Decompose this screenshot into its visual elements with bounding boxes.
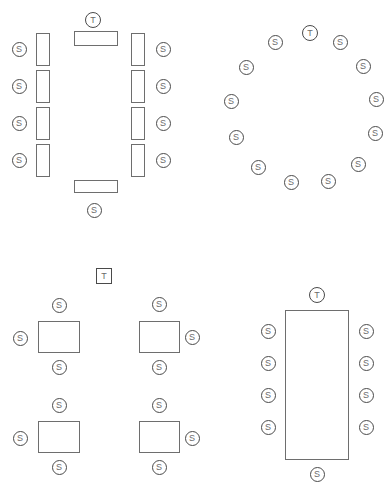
seat-right-4[interactable]: S	[156, 153, 171, 168]
head-marker-boardroom[interactable]: T	[309, 287, 325, 303]
seat-label: S	[265, 391, 271, 400]
seat-label: S	[363, 359, 369, 368]
seat-br-bottom[interactable]: S	[152, 460, 167, 475]
seat-board-right-1[interactable]: S	[359, 324, 374, 339]
head-label: T	[307, 29, 313, 38]
table-right-1[interactable]	[131, 33, 145, 66]
layout-round-table-ring[interactable]: TSSSSSSSSSSSS	[195, 0, 389, 230]
table-left-1[interactable]	[36, 33, 50, 66]
square-table-top-right[interactable]	[139, 321, 180, 353]
seat-br-right[interactable]: S	[185, 431, 200, 446]
seat-label: S	[16, 156, 22, 165]
seat-label: S	[17, 434, 23, 443]
seat-left-3[interactable]: S	[12, 116, 27, 131]
seat-tl-bottom[interactable]: S	[52, 360, 67, 375]
square-table-bottom-left[interactable]	[38, 421, 80, 453]
seat-label: S	[265, 359, 271, 368]
seat-ring-1[interactable]: S	[268, 35, 283, 50]
seat-tl-top[interactable]: S	[52, 298, 67, 313]
seat-ring-8[interactable]: S	[351, 157, 366, 172]
seat-board-right-4[interactable]: S	[359, 420, 374, 435]
seat-label: S	[325, 177, 331, 186]
head-label: T	[314, 291, 320, 300]
seat-bl-top[interactable]: S	[52, 398, 67, 413]
head-label: T	[90, 16, 96, 25]
seat-board-left-2[interactable]: S	[261, 356, 276, 371]
seat-label: S	[56, 463, 62, 472]
head-label: T	[101, 272, 107, 281]
seat-label: S	[16, 82, 22, 91]
seat-board-left-4[interactable]: S	[261, 420, 276, 435]
seat-ring-6[interactable]: S	[284, 175, 299, 190]
seat-left-1[interactable]: S	[12, 42, 27, 57]
long-rectangular-table[interactable]	[285, 310, 349, 460]
seat-bottom[interactable]: S	[87, 203, 102, 218]
seat-ring-10[interactable]: S	[369, 92, 384, 107]
layout-banquet-double-row[interactable]: TSSSSSSSSS	[0, 0, 195, 230]
seat-ring-9[interactable]: S	[368, 126, 383, 141]
seat-label: S	[233, 133, 239, 142]
seat-left-2[interactable]: S	[12, 79, 27, 94]
seat-right-2[interactable]: S	[156, 79, 171, 94]
seat-tr-right[interactable]: S	[185, 330, 200, 345]
seat-left-4[interactable]: S	[12, 153, 27, 168]
seating-layout-canvas: TSSSSSSSSSTSSSSSSSSSSSSTSSSSSSSSSSSSTSSS…	[0, 0, 389, 485]
table-left-2[interactable]	[36, 70, 50, 103]
layout-cabaret-four-squares[interactable]: TSSSSSSSSSSSS	[0, 255, 210, 485]
seat-label: S	[17, 334, 23, 343]
head-marker-ring[interactable]: T	[302, 25, 318, 41]
seat-ring-4[interactable]: S	[229, 130, 244, 145]
seat-board-right-2[interactable]: S	[359, 356, 374, 371]
seat-board-right-3[interactable]: S	[359, 388, 374, 403]
seat-label: S	[16, 119, 22, 128]
seat-right-3[interactable]: S	[156, 116, 171, 131]
table-bottom-cross[interactable]	[74, 180, 118, 193]
seat-tr-top[interactable]: S	[152, 297, 167, 312]
table-right-3[interactable]	[131, 107, 145, 140]
table-right-4[interactable]	[131, 144, 145, 177]
seat-label: S	[288, 178, 294, 187]
seat-ring-11[interactable]: S	[356, 59, 371, 74]
seat-ring-5[interactable]: S	[251, 160, 266, 175]
seat-right-1[interactable]: S	[156, 42, 171, 57]
seat-label: S	[373, 95, 379, 104]
seat-ring-3[interactable]: S	[224, 94, 239, 109]
seat-label: S	[265, 327, 271, 336]
seat-label: S	[56, 301, 62, 310]
seat-tr-bottom[interactable]: S	[152, 360, 167, 375]
seat-label: S	[337, 38, 343, 47]
seat-label: S	[360, 62, 366, 71]
seat-label: S	[265, 423, 271, 432]
square-table-bottom-right[interactable]	[139, 421, 180, 453]
seat-bl-bottom[interactable]: S	[52, 460, 67, 475]
seat-label: S	[372, 129, 378, 138]
seat-label: S	[156, 363, 162, 372]
seat-board-left-3[interactable]: S	[261, 388, 276, 403]
seat-label: S	[156, 401, 162, 410]
seat-ring-7[interactable]: S	[321, 174, 336, 189]
seat-tl-left[interactable]: S	[13, 331, 28, 346]
seat-label: S	[160, 156, 166, 165]
head-marker-top[interactable]: T	[85, 12, 101, 28]
seat-label: S	[156, 300, 162, 309]
seat-label: S	[91, 206, 97, 215]
seat-label: S	[272, 38, 278, 47]
seat-label: S	[16, 45, 22, 54]
seat-ring-2[interactable]: S	[239, 60, 254, 75]
seat-label: S	[160, 119, 166, 128]
head-marker-square[interactable]: T	[96, 268, 112, 284]
seat-ring-12[interactable]: S	[333, 35, 348, 50]
seat-bl-left[interactable]: S	[13, 431, 28, 446]
seat-board-bottom[interactable]: S	[310, 467, 325, 482]
square-table-top-left[interactable]	[38, 321, 80, 353]
layout-boardroom-long-table[interactable]: TSSSSSSSSS	[250, 280, 389, 485]
seat-label: S	[56, 363, 62, 372]
table-top-cross[interactable]	[74, 31, 118, 46]
seat-br-top[interactable]: S	[152, 398, 167, 413]
table-left-4[interactable]	[36, 144, 50, 177]
seat-board-left-1[interactable]: S	[261, 324, 276, 339]
seat-label: S	[255, 163, 261, 172]
seat-label: S	[160, 82, 166, 91]
table-left-3[interactable]	[36, 107, 50, 140]
table-right-2[interactable]	[131, 70, 145, 103]
